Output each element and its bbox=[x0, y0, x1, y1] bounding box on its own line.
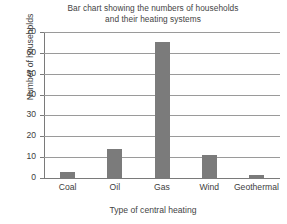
y-axis-tick bbox=[40, 136, 44, 137]
y-axis-tick-label: 70 bbox=[2, 27, 36, 36]
bar-gas bbox=[155, 42, 170, 178]
y-axis-tick-label: 0 bbox=[2, 173, 36, 182]
y-axis-tick-label: 60 bbox=[2, 48, 36, 57]
x-axis-line bbox=[44, 178, 280, 179]
x-axis-title: Type of central heating bbox=[24, 205, 282, 215]
y-axis-tick bbox=[40, 74, 44, 75]
x-axis-tick-label-geothermal: Geothermal bbox=[216, 182, 287, 192]
bar-geothermal bbox=[249, 175, 264, 178]
chart-title: Bar chart showing the numbers of househo… bbox=[24, 3, 282, 25]
bar-chart: Bar chart showing the numbers of househo… bbox=[0, 0, 287, 224]
y-axis-tick-label: 20 bbox=[2, 131, 36, 140]
y-axis-tick bbox=[40, 53, 44, 54]
bar-coal bbox=[60, 172, 75, 178]
bar-wind bbox=[202, 155, 217, 178]
y-axis-tick-label: 30 bbox=[2, 110, 36, 119]
y-axis-tick bbox=[40, 115, 44, 116]
y-axis-tick-label: 10 bbox=[2, 152, 36, 161]
y-axis-tick-label: 40 bbox=[2, 90, 36, 99]
plot-area: CoalOilGasWindGeothermal bbox=[44, 32, 280, 178]
y-axis-tick bbox=[40, 157, 44, 158]
y-axis-tick bbox=[40, 95, 44, 96]
bar-oil bbox=[107, 149, 122, 178]
gridline bbox=[44, 32, 280, 33]
y-axis-tick-label: 50 bbox=[2, 69, 36, 78]
y-axis-tick bbox=[40, 32, 44, 33]
chart-title-line-2: and their heating systems bbox=[24, 14, 282, 25]
chart-title-line-1: Bar chart showing the numbers of househo… bbox=[24, 3, 282, 14]
y-axis-tick bbox=[40, 178, 44, 179]
